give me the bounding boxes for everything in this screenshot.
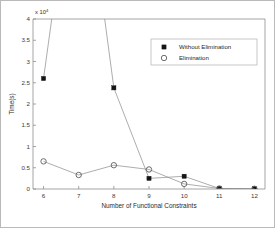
x-tick-label: 10 bbox=[181, 192, 188, 199]
legend-marker-without-elimination bbox=[162, 45, 166, 49]
y-tick-label: 3 bbox=[27, 58, 31, 65]
y-axis-title: Time(s) bbox=[8, 93, 16, 114]
x-tick-label: 7 bbox=[77, 192, 81, 199]
x-tick-label: 6 bbox=[42, 192, 46, 199]
y-tick-label: 1 bbox=[27, 143, 31, 150]
series-group bbox=[41, 1, 257, 191]
x-tick-label: 12 bbox=[251, 192, 258, 199]
figure-container: 00.511.522.533.546789101112Number of Fun… bbox=[0, 0, 275, 228]
series-line-1 bbox=[44, 161, 255, 188]
data-point-marker bbox=[112, 86, 116, 90]
y-tick-label: 0.5 bbox=[21, 164, 30, 171]
x-axis-title: Number of Functional Constraints bbox=[101, 202, 196, 209]
data-point-marker bbox=[182, 174, 186, 178]
data-point-marker bbox=[147, 176, 151, 180]
data-point-marker bbox=[41, 76, 45, 80]
series-line-0 bbox=[44, 1, 255, 189]
legend-label-elimination: Elimination bbox=[179, 54, 209, 61]
chart-plot: 00.511.522.533.546789101112Number of Fun… bbox=[1, 1, 275, 228]
y-axis-multiplier: x 104 bbox=[35, 8, 49, 15]
y-tick-label: 2 bbox=[27, 100, 31, 107]
x-tick-label: 11 bbox=[216, 192, 223, 199]
x-tick-label: 8 bbox=[112, 192, 116, 199]
x-tick-label: 9 bbox=[147, 192, 151, 199]
y-axis-multiplier-exponent: 4 bbox=[46, 8, 49, 13]
y-tick-label: 0 bbox=[27, 185, 31, 192]
y-tick-label: 4 bbox=[27, 15, 31, 22]
y-tick-label: 3.5 bbox=[21, 36, 30, 43]
y-tick-label: 1.5 bbox=[21, 121, 30, 128]
legend-label-without-elimination: Without Elimination bbox=[179, 43, 231, 50]
y-tick-label: 2.5 bbox=[21, 79, 30, 86]
